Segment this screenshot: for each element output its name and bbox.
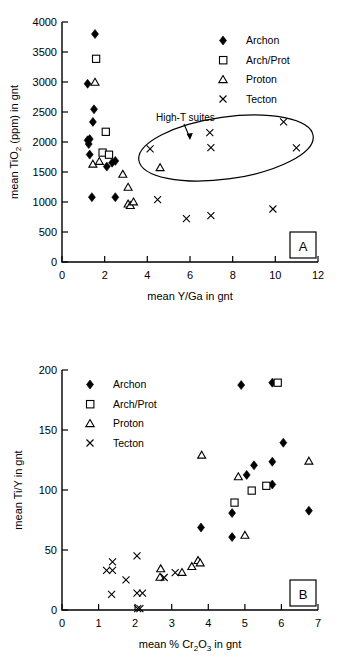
x-tick-label: 5 (242, 617, 248, 629)
panel-a-series-archon (84, 30, 119, 202)
y-axis-title-post: (ppm) in gnt (8, 85, 20, 147)
high-t-suites-arrow-icon (184, 124, 193, 140)
y-tick-label: 1000 (33, 196, 57, 208)
panel-b-x-tick-labels: 0 1 2 3 4 5 6 7 (59, 617, 321, 629)
panel-b-svg: 0 50 100 150 200 0 1 2 3 (0, 335, 343, 670)
panel-b-y-ticks (62, 370, 68, 610)
panel-b-scatter: 0 50 100 150 200 0 1 2 3 (0, 335, 343, 670)
panel-b-series-proton (156, 451, 313, 580)
panel-a-series-proton (89, 78, 164, 208)
legend-label-arch-prot: Arch/Prot (113, 398, 157, 410)
y-tick-label: 3000 (33, 76, 57, 88)
x-tick-label: 2 (102, 269, 108, 281)
y-tick-label: 1500 (33, 166, 57, 178)
panel-b-letter-box: B (290, 580, 316, 606)
x-tick-label: 6 (187, 269, 193, 281)
legend-label-tecton: Tecton (246, 93, 277, 105)
panel-a-series-tecton (147, 118, 300, 222)
legend-label-proton: Proton (113, 417, 144, 429)
panel-b-x-axis-title: mean % Cr2O3 in gnt (139, 638, 241, 653)
y-tick-label: 200 (39, 364, 57, 376)
legend-label-archon: Archon (246, 34, 279, 46)
x-tick-label: 4 (205, 617, 211, 629)
x-tick-label: 12 (312, 269, 324, 281)
y-tick-label: 100 (39, 484, 57, 496)
panel-b-x-ticks (62, 604, 318, 610)
y-tick-label: 4000 (33, 16, 57, 28)
panel-a-legend: Archon Arch/Prot Proton Tecton (219, 34, 290, 105)
panel-b-series-archon (198, 378, 313, 541)
y-tick-label: 0 (51, 604, 57, 616)
y-tick-label: 50 (45, 544, 57, 556)
panel-a-y-ticks (62, 22, 68, 262)
x-tick-label: 4 (144, 269, 150, 281)
y-tick-label: 2000 (33, 136, 57, 148)
panel-b-y-axis-title: mean Ti/Y in gnt (12, 450, 24, 529)
panel-a-x-axis-title: mean Y/Ga in gnt (147, 290, 232, 302)
panel-a-letter: A (299, 239, 308, 254)
x-axis-title-pre: mean % Cr (139, 638, 194, 650)
high-t-suites-annotation: High-T suites (156, 112, 215, 123)
scientific-figure: 0 500 1000 1500 2000 2500 3000 3500 4000 (0, 0, 343, 670)
y-tick-label: 2500 (33, 106, 57, 118)
panel-a-svg: 0 500 1000 1500 2000 2500 3000 3500 4000 (0, 0, 343, 335)
panel-a-letter-box: A (290, 232, 316, 258)
x-tick-label: 10 (269, 269, 281, 281)
x-tick-label: 2 (132, 617, 138, 629)
x-tick-label: 6 (278, 617, 284, 629)
x-tick-label: 8 (230, 269, 236, 281)
x-tick-label: 1 (96, 617, 102, 629)
x-tick-label: 7 (315, 617, 321, 629)
x-axis-title-post: in gnt (211, 638, 241, 650)
panel-b-axes (62, 370, 318, 610)
y-tick-label: 150 (39, 424, 57, 436)
panel-a-scatter: 0 500 1000 1500 2000 2500 3000 3500 4000 (0, 0, 343, 335)
legend-label-archon: Archon (113, 378, 146, 390)
panel-a-x-tick-labels: 0 2 4 6 8 10 12 (59, 269, 324, 281)
y-axis-title-pre: mean TiO (8, 151, 20, 199)
panel-b-series-tecton (103, 552, 179, 612)
svg-text:mean Ti/Y in gnt: mean Ti/Y in gnt (12, 450, 24, 529)
panel-b-letter: B (299, 587, 308, 602)
panel-b-y-tick-labels: 0 50 100 150 200 (39, 364, 57, 616)
legend-label-tecton: Tecton (113, 437, 144, 449)
panel-a-x-ticks (62, 256, 318, 262)
y-tick-label: 500 (39, 226, 57, 238)
y-tick-label: 3500 (33, 46, 57, 58)
x-tick-label: 0 (59, 269, 65, 281)
panel-a-y-tick-labels: 0 500 1000 1500 2000 2500 3000 3500 4000 (33, 16, 57, 268)
y-tick-label: 0 (51, 256, 57, 268)
legend-label-arch-prot: Arch/Prot (246, 54, 290, 66)
x-tick-label: 3 (169, 617, 175, 629)
legend-label-proton: Proton (246, 73, 277, 85)
panel-b-legend: Archon Arch/Prot Proton Tecton (86, 378, 157, 449)
x-tick-label: 0 (59, 617, 65, 629)
panel-a-y-axis-title: mean TiO2 (ppm) in gnt (8, 85, 23, 199)
svg-text:mean TiO2 (ppm) in gnt: mean TiO2 (ppm) in gnt (8, 85, 23, 199)
